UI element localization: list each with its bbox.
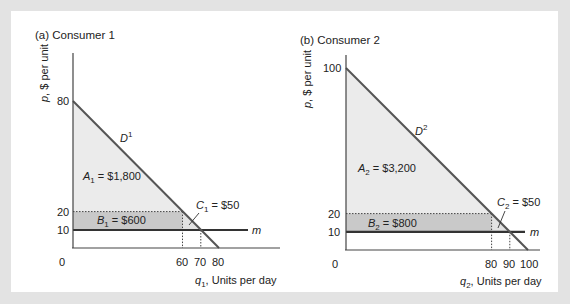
x-axis-label-b: q2, Units per day xyxy=(460,275,542,290)
demand-label-d1: D1 xyxy=(120,130,133,144)
demand-label-d2: D2 xyxy=(415,123,428,137)
y-tick-0-a: 0 xyxy=(59,256,65,268)
y-tick-80-a: 80 xyxy=(57,95,69,107)
chart-title-a: (a) Consumer 1 xyxy=(35,29,115,41)
y-tick-20-a: 20 xyxy=(57,206,69,218)
x-tick-100-b: 100 xyxy=(520,258,538,270)
y-tick-0-b: 0 xyxy=(332,258,338,270)
x-tick-80-a: 80 xyxy=(212,256,224,268)
chart-consumer-1: (a) Consumer 1 p, $ per unit 80 20 10 0 … xyxy=(35,29,280,289)
y-axis-label-a: p, $ per unit xyxy=(38,44,50,103)
area-c2-label: C2 = $50 xyxy=(497,196,540,211)
chart-svg: (a) Consumer 1 p, $ per unit 80 20 10 0 … xyxy=(0,0,570,304)
chart-title-b: (b) Consumer 2 xyxy=(300,34,380,46)
y-tick-20-b: 20 xyxy=(328,208,340,220)
y-tick-100-b: 100 xyxy=(323,62,341,74)
area-c1-label: C1 = $50 xyxy=(196,199,239,214)
x-tick-90-b: 90 xyxy=(503,258,515,270)
x-axis-label-a: q1, Units per day xyxy=(195,274,277,289)
y-tick-10-b: 10 xyxy=(328,226,340,238)
m-label-b: m xyxy=(530,226,539,238)
y-tick-10-a: 10 xyxy=(57,224,69,236)
x-tick-70-a: 70 xyxy=(194,256,206,268)
x-tick-80-b: 80 xyxy=(485,258,497,270)
m-label-a: m xyxy=(252,224,261,236)
x-tick-60-a: 60 xyxy=(176,256,188,268)
y-axis-label-b: p, $ per unit xyxy=(301,50,313,109)
chart-consumer-2: (b) Consumer 2 p, $ per unit 100 20 10 0… xyxy=(300,34,542,290)
